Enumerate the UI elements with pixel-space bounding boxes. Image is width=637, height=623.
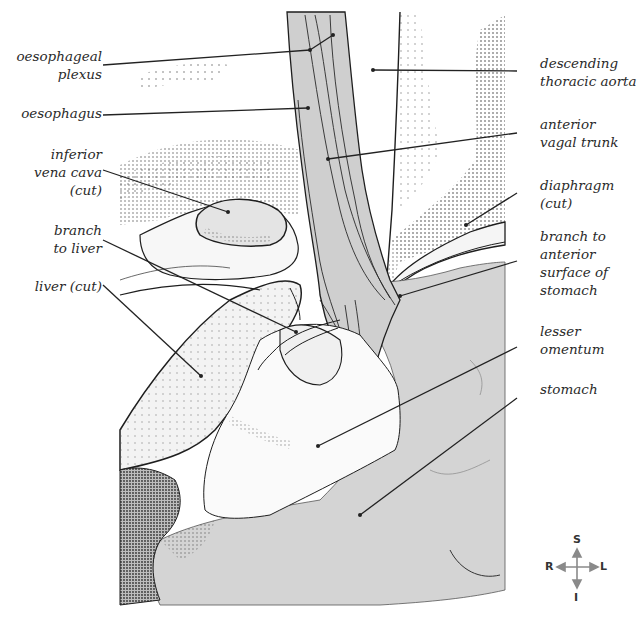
label-oesophageal-plexus: oesophageal plexus bbox=[16, 47, 102, 83]
compass-inferior: I bbox=[574, 591, 578, 604]
orientation-compass bbox=[557, 549, 598, 588]
label-descending-thoracic-aorta: descending thoracic aorta bbox=[540, 54, 637, 90]
compass-right: R bbox=[545, 560, 553, 573]
compass-left: L bbox=[600, 560, 607, 573]
label-liver: liver (cut) bbox=[35, 277, 102, 295]
compass-superior: S bbox=[573, 533, 581, 546]
label-oesophagus: oesophagus bbox=[21, 104, 102, 122]
label-branch-to-stomach: branch to anterior surface of stomach bbox=[540, 227, 608, 299]
label-anterior-vagal-trunk: anterior vagal trunk bbox=[540, 115, 618, 151]
label-diaphragm: diaphragm (cut) bbox=[540, 176, 614, 212]
label-lesser-omentum: lesser omentum bbox=[540, 322, 605, 358]
label-branch-to-liver: branch to liver bbox=[53, 221, 102, 257]
label-stomach: stomach bbox=[540, 380, 598, 398]
label-inferior-vena-cava: inferior vena cava (cut) bbox=[34, 145, 102, 199]
